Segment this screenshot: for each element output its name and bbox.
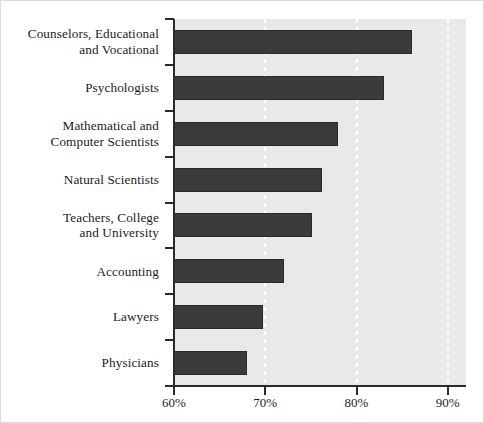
- bar: [174, 30, 412, 54]
- bar: [174, 259, 284, 283]
- plot-area: [174, 19, 466, 386]
- bar-slot: [174, 157, 466, 203]
- category-axis: Counselors, Educational and Vocational P…: [1, 19, 167, 386]
- x-axis-tick: [356, 387, 358, 395]
- bar-slot: [174, 65, 466, 111]
- x-axis-tick: [447, 387, 449, 395]
- y-axis-tick: [165, 339, 174, 341]
- category-label: Psychologists: [1, 65, 167, 111]
- y-axis-tick: [165, 110, 174, 112]
- y-axis-tick: [165, 156, 174, 158]
- y-axis-tick: [165, 247, 174, 249]
- bar: [174, 305, 263, 329]
- bar: [174, 351, 247, 375]
- category-label: Lawyers: [1, 294, 167, 340]
- category-label: Natural Scientists: [1, 157, 167, 203]
- x-axis-tick-label: 90%: [436, 395, 460, 411]
- bar: [174, 168, 322, 192]
- bar: [174, 122, 338, 146]
- bar-slot: [174, 19, 466, 65]
- x-axis-tick-label: 70%: [253, 395, 277, 411]
- category-label: Physicians: [1, 340, 167, 386]
- bar-series: [174, 19, 466, 386]
- x-axis-line: [173, 385, 466, 387]
- bar: [174, 213, 312, 237]
- bar-slot: [174, 111, 466, 157]
- category-label: Counselors, Educational and Vocational: [1, 19, 167, 65]
- x-axis-tick: [173, 387, 175, 395]
- bar-slot: [174, 248, 466, 294]
- x-axis-tick: [264, 387, 266, 395]
- category-label: Accounting: [1, 248, 167, 294]
- category-label: Teachers, College and University: [1, 203, 167, 249]
- category-label: Mathematical and Computer Scientists: [1, 111, 167, 157]
- y-axis-tick: [165, 293, 174, 295]
- y-axis-tick: [165, 202, 174, 204]
- x-axis-tick-label: 80%: [345, 395, 369, 411]
- bar-chart-figure: Counselors, Educational and Vocational P…: [0, 0, 484, 423]
- bar-slot: [174, 203, 466, 249]
- bar: [174, 76, 384, 100]
- bar-slot: [174, 294, 466, 340]
- y-axis-tick: [165, 18, 174, 20]
- bar-slot: [174, 340, 466, 386]
- y-axis-tick: [165, 64, 174, 66]
- x-axis-tick-label: 60%: [162, 395, 186, 411]
